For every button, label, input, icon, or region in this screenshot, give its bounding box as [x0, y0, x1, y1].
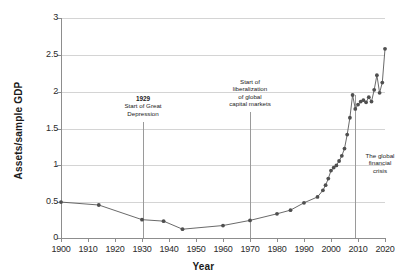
data-point [348, 116, 352, 120]
data-point [345, 133, 349, 137]
data-point [337, 159, 341, 163]
data-point [367, 95, 371, 99]
data-series-layer [0, 0, 407, 280]
data-point [321, 188, 325, 192]
data-point [353, 107, 357, 111]
data-point [364, 100, 368, 104]
data-point [343, 147, 347, 151]
data-point [302, 201, 306, 205]
data-point [324, 183, 328, 187]
data-point [59, 200, 63, 204]
data-point [221, 224, 225, 228]
data-point [356, 103, 360, 107]
data-point [316, 195, 320, 199]
data-point [340, 154, 344, 158]
data-point [372, 88, 376, 92]
data-point [335, 164, 339, 168]
series-line [61, 49, 385, 229]
data-point [181, 227, 185, 231]
data-point [351, 93, 355, 97]
data-point [162, 219, 166, 223]
data-point [140, 218, 144, 222]
data-point [375, 73, 379, 77]
data-point [370, 100, 374, 104]
chart-container: 3 2.5 2 1.5 1 0.5 0 1900 1910 1920 1930 … [0, 0, 407, 280]
data-point [275, 212, 279, 216]
data-point [326, 177, 330, 181]
data-point [329, 169, 333, 173]
data-point [248, 219, 252, 223]
data-point [97, 203, 101, 207]
data-point [378, 91, 382, 95]
data-point [380, 81, 384, 85]
data-point [383, 47, 387, 51]
data-point [289, 208, 293, 212]
